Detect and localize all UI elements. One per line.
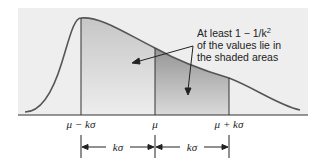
interval-label-right: kσ (187, 141, 198, 153)
dimension-brackets (81, 135, 229, 158)
label-mu-plus-ksigma: μ + kσ (214, 118, 244, 130)
annotation-line-2: of the values lie in (197, 39, 281, 51)
label-mu: μ (151, 118, 158, 130)
chebyshev-diagram: At least 1 − 1/k2 of the values lie in t… (0, 0, 321, 168)
annotation-line-1: At least 1 − 1/k2 (197, 26, 271, 39)
interval-label-left: kσ (113, 141, 124, 153)
label-mu-minus-ksigma: μ − kσ (66, 118, 96, 130)
annotation-line-3: the shaded areas (197, 51, 278, 63)
